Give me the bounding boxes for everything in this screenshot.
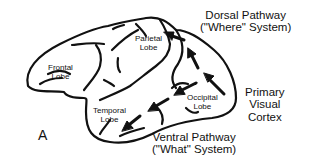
dorsal-pathway-label: Dorsal Pathway ("Where" System)	[200, 9, 291, 34]
panel-label: A	[38, 128, 47, 143]
pvc-line3: Cortex	[245, 111, 285, 123]
ventral-pathway-title: Ventral Pathway	[152, 131, 236, 143]
pvc-line1: Primary	[245, 86, 285, 98]
frontal-lobe-line2: Lobe	[48, 73, 73, 82]
parietal-lobe-label: Parietal Lobe	[135, 35, 162, 52]
occipital-lobe-line2: Lobe	[187, 103, 218, 112]
dorsal-pathway-title: Dorsal Pathway	[200, 9, 291, 21]
dorsal-pathway-subtitle: ("Where" System)	[200, 21, 291, 33]
temporal-lobe-label: Temporal Lobe	[93, 107, 126, 124]
ventral-pathway-label: Ventral Pathway ("What" System)	[152, 131, 236, 156]
ventral-pathway-subtitle: ("What" System)	[152, 143, 236, 155]
primary-visual-cortex-label: Primary Visual Cortex	[245, 86, 285, 123]
pvc-line2: Visual	[245, 98, 285, 110]
occipital-lobe-label: Occipital Lobe	[187, 94, 218, 111]
temporal-lobe-line2: Lobe	[93, 116, 126, 125]
frontal-lobe-label: Frontal Lobe	[48, 64, 73, 81]
parietal-lobe-line2: Lobe	[135, 44, 162, 53]
